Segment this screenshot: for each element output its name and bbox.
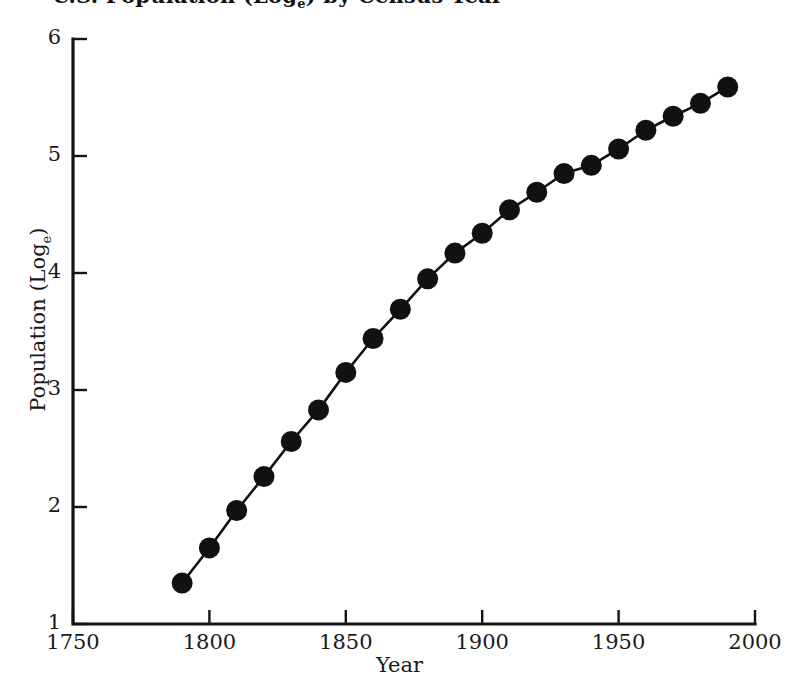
y-tick-label-6: 6: [21, 25, 61, 49]
data-point-1850: [335, 362, 356, 383]
data-point-1960: [635, 120, 656, 141]
x-tick-label-1750: 1750: [33, 630, 113, 654]
y-axis-title-subscript: e: [39, 236, 54, 244]
chart-plot-area: 123456 175018001850190019502000: [0, 0, 799, 691]
data-point-1860: [363, 328, 384, 349]
data-point-1790: [172, 573, 193, 594]
data-point-1890: [444, 243, 465, 264]
x-tick-label-1900: 1900: [442, 630, 522, 654]
data-point-1920: [526, 182, 547, 203]
data-point-1830: [281, 431, 302, 452]
x-tick-label-2000: 2000: [715, 630, 795, 654]
y-axis-ticks: [73, 39, 87, 624]
y-tick-label-5: 5: [21, 142, 61, 166]
data-point-1840: [308, 399, 329, 420]
x-axis-title: Year: [0, 653, 799, 677]
data-point-1880: [417, 268, 438, 289]
data-point-1940: [581, 155, 602, 176]
data-point-1910: [499, 199, 520, 220]
chart-svg: [0, 0, 799, 691]
data-point-1980: [690, 93, 711, 114]
series-polyline: [182, 87, 728, 583]
x-tick-label-1850: 1850: [306, 630, 386, 654]
data-point-markers: [172, 76, 739, 593]
y-axis-title: Population (Loge): [26, 190, 53, 450]
data-point-1810: [226, 500, 247, 521]
x-tick-label-1950: 1950: [579, 630, 659, 654]
data-point-1820: [253, 466, 274, 487]
data-point-1900: [472, 223, 493, 244]
y-axis-title-tail: ): [26, 227, 50, 235]
x-tick-label-1800: 1800: [169, 630, 249, 654]
data-point-1970: [663, 106, 684, 127]
data-point-1870: [390, 299, 411, 320]
data-point-1800: [199, 537, 220, 558]
data-point-1990: [717, 76, 738, 97]
data-series-line: [182, 87, 728, 583]
data-point-1930: [554, 163, 575, 184]
y-tick-label-2: 2: [21, 493, 61, 517]
data-point-1950: [608, 138, 629, 159]
y-axis-title-main: Population (Log: [26, 243, 50, 411]
x-axis-ticks: [73, 610, 755, 624]
